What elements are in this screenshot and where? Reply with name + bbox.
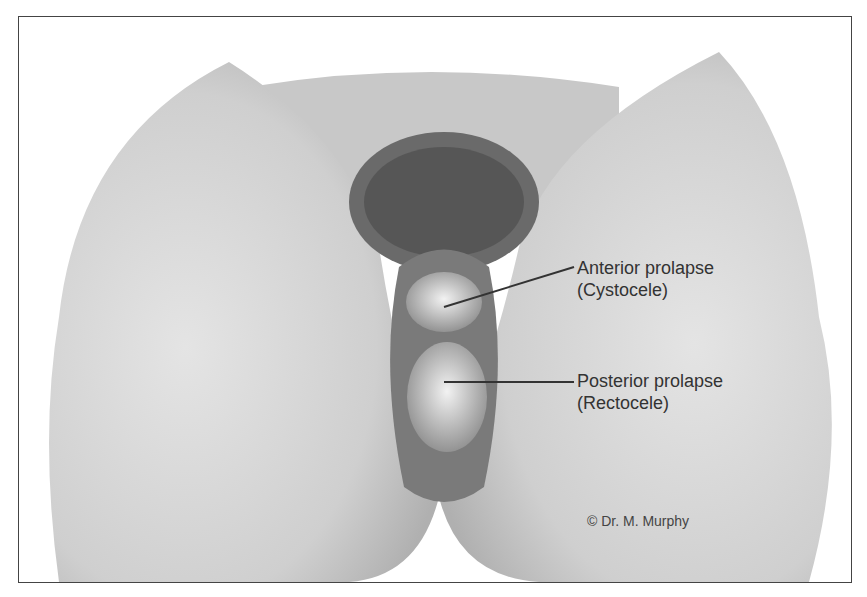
label-anterior-prolapse-title: Anterior prolapse	[577, 257, 714, 279]
copyright-notice: © Dr. M. Murphy	[587, 513, 689, 529]
label-anterior-prolapse: Anterior prolapse (Cystocele)	[577, 257, 714, 301]
label-posterior-prolapse-title: Posterior prolapse	[577, 370, 723, 392]
illustration-frame: Anterior prolapse (Cystocele) Posterior …	[18, 16, 852, 583]
label-anterior-prolapse-subtitle: (Cystocele)	[577, 279, 714, 301]
label-posterior-prolapse-subtitle: (Rectocele)	[577, 392, 723, 414]
anatomical-illustration	[19, 17, 851, 582]
label-posterior-prolapse: Posterior prolapse (Rectocele)	[577, 370, 723, 414]
